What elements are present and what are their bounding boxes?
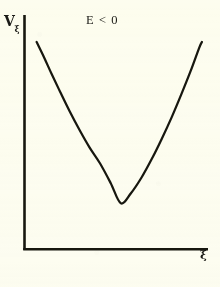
plot-area: [0, 0, 220, 287]
plot-title: E < 0: [86, 14, 119, 27]
figure-panel: E < 0 Vξ ξ: [0, 0, 220, 287]
potential-curve: [37, 42, 202, 204]
y-axis-label-subscript: ξ: [14, 24, 19, 34]
x-axis-label: ξ: [200, 250, 207, 262]
y-axis-label: Vξ: [4, 14, 20, 31]
